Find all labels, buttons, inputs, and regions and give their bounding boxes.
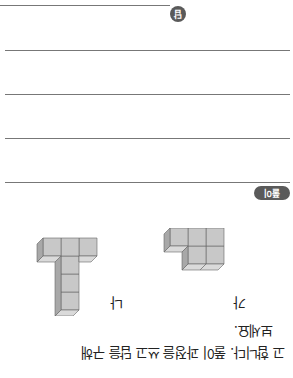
solution-line-2[interactable]: [5, 138, 290, 139]
solution-line-3[interactable]: [5, 94, 290, 95]
solution-line-4[interactable]: [5, 50, 290, 51]
cube-figure-ga: [158, 228, 230, 280]
answer-line[interactable]: [0, 5, 170, 6]
worksheet-page: 고 합니다. 풀이 과정을 쓰고 답을 구해 보세요. 가 나: [0, 0, 293, 378]
question-text-line-2: 보세요.: [234, 322, 273, 342]
answer-badge: 답: [170, 6, 186, 22]
solution-badge: 풀이: [254, 186, 290, 200]
question-text-line-1: 고 합니다. 풀이 과정을 쓰고 답을 구해: [82, 344, 285, 364]
cube-figure-na: [31, 226, 103, 316]
solution-line-1[interactable]: [5, 182, 290, 183]
figure-label-ga: 가: [233, 294, 246, 314]
figure-label-na: 나: [110, 294, 123, 314]
